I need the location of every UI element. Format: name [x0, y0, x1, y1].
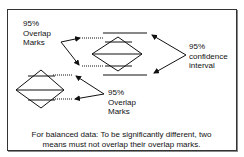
- diamond-left: [16, 70, 64, 108]
- label-overlap-marks-top: 95% Overlap Marks: [23, 19, 51, 48]
- diamond-right: [92, 33, 147, 75]
- label-confidence-interval: 95% confidence interval: [189, 42, 228, 71]
- caption: For balanced data: To be significantly d…: [14, 130, 229, 149]
- label-overlap-marks-bottom: 95% Overlap Marks: [108, 88, 136, 117]
